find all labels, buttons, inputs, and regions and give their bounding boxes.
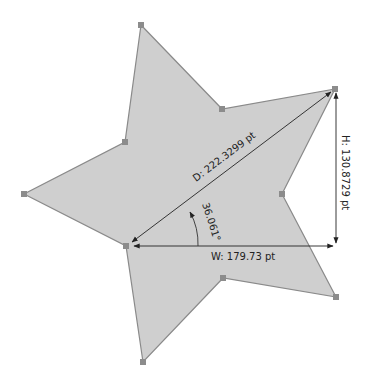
handle-inner-1[interactable] [219,106,225,112]
height-label: H: 130.8729 pt [340,135,351,210]
handle-inner-3[interactable] [220,275,226,281]
handle-top[interactable] [138,22,144,28]
handle-right[interactable] [332,86,338,92]
handle-bottom-right[interactable] [333,294,339,300]
width-label: W: 179.73 pt [211,251,275,262]
star-shape[interactable] [24,25,336,362]
handle-inner-5[interactable] [122,139,128,145]
handle-inner-2[interactable] [279,191,285,197]
handle-left[interactable] [21,191,27,197]
handle-bottom[interactable] [140,359,146,365]
star-measurement-diagram: D: 222.3299 pt W: 179.73 pt H: 130.8729 … [0,0,368,384]
handle-inner-4[interactable] [123,243,129,249]
